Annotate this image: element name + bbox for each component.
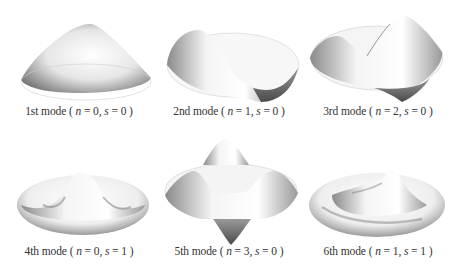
mode-1-caption: 1st mode ( n = 0, s = 0 ) [3,105,155,117]
mode-4-surface-graphic [3,135,155,247]
mode-panel-6: 6th mode ( n = 1, s = 1 ) [302,135,454,269]
mode-panel-4: 4th mode ( n = 0, s = 1 ) [3,135,155,269]
mode-panel-5: 5th mode ( n = 3, s = 0 ) [153,135,305,269]
mode-panel-2: 2nd mode ( n = 1, s = 0 ) [153,0,305,134]
mode-6-caption: 6th mode ( n = 1, s = 1 ) [302,245,454,257]
mode-3-caption: 3rd mode ( n = 2, s = 0 ) [302,105,454,117]
mode-2-surface-graphic [153,0,305,110]
mode-5-caption: 5th mode ( n = 3, s = 0 ) [153,245,305,257]
mode-panel-1: 1st mode ( n = 0, s = 0 ) [3,0,155,134]
mode-4-caption: 4th mode ( n = 0, s = 1 ) [3,245,155,257]
mode-3-surface-graphic [302,0,458,110]
mode-5-surface-graphic [153,135,305,247]
mode-panel-3: 3rd mode ( n = 2, s = 0 ) [302,0,454,134]
mode-6-surface-graphic [302,135,458,247]
mode-2-caption: 2nd mode ( n = 1, s = 0 ) [153,105,305,117]
mode-1-surface-graphic [3,0,155,110]
